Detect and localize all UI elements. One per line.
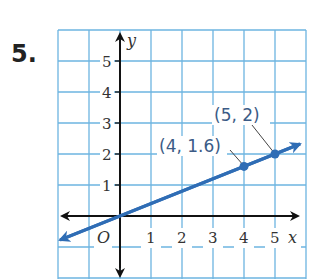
x-tick-4: 4 [239,229,249,247]
point-4-1.6 [240,162,249,171]
x-tick-1: 1 [146,229,156,247]
y-tick-2: 2 [102,146,112,164]
point-5-2 [271,150,280,159]
x-tick-3: 3 [208,229,218,247]
label-point-5-2: (5, 2) [214,105,260,125]
y-tick-3: 3 [102,115,112,133]
y-axis-label: y [126,31,137,50]
x-tick-2: 2 [177,229,187,247]
y-tick-5: 5 [102,53,112,71]
x-tick-5: 5 [270,229,280,247]
y-tick-1: 1 [102,177,112,195]
origin-label: O [97,228,110,247]
coordinate-plane: 5 4 3 2 1 1 2 3 4 5 x y O (4, 1.6) (5, 2… [0,0,326,279]
y-tick-4: 4 [102,84,112,102]
x-axis-label: x [288,228,297,247]
label-point-4-1.6: (4, 1.6) [159,136,221,156]
